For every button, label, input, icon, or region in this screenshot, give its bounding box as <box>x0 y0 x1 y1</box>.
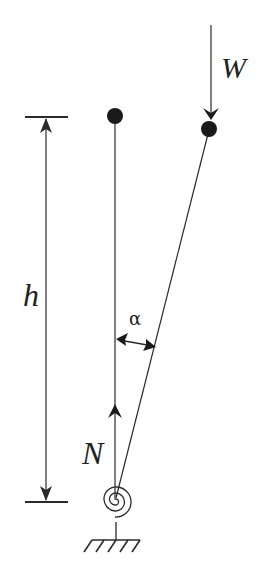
pendulum-diagram: h N W α <box>0 0 266 584</box>
height-label: h <box>23 277 39 313</box>
torsional-spring <box>104 487 131 540</box>
normal-force-label: N <box>81 435 105 471</box>
load-label: W <box>221 51 249 84</box>
angle-label: α <box>129 308 141 329</box>
angle-arrow-left-icon <box>116 333 128 346</box>
top-mass-vertical <box>107 108 123 124</box>
ground-support <box>84 540 140 552</box>
top-mass-tilted <box>201 121 217 137</box>
